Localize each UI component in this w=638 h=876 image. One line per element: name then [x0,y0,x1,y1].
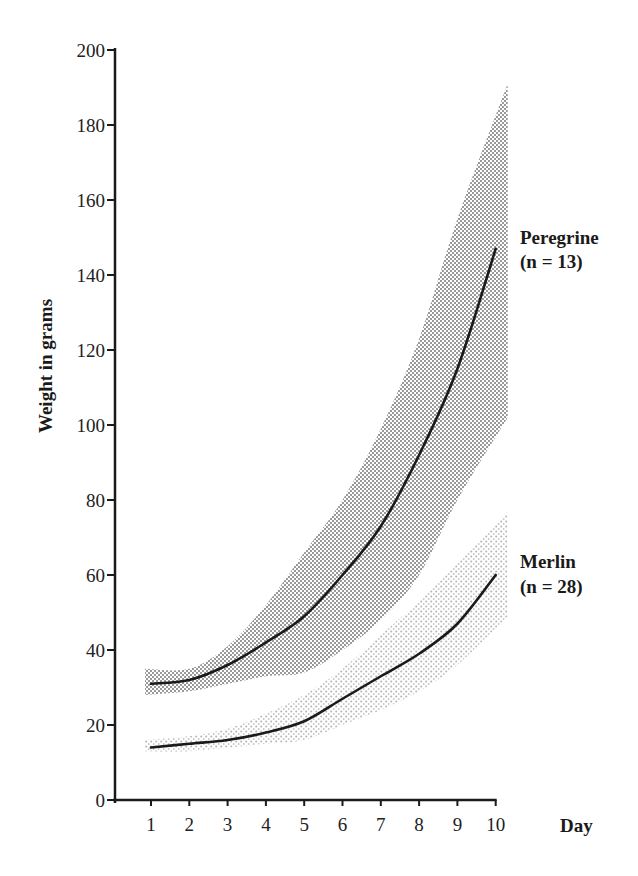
x-tick-label: 4 [261,814,271,835]
y-tick-label: 140 [77,265,106,286]
y-tick-label: 160 [77,190,106,211]
y-tick-label: 40 [86,640,105,661]
y-tick-label: 120 [77,340,106,361]
y-tick-label: 80 [86,490,105,511]
x-tick-label: 1 [146,814,156,835]
y-tick-label: 180 [77,115,106,136]
range-bands [145,84,508,752]
x-tick-label: 9 [453,814,463,835]
merlin-n-label: (n = 28) [520,576,583,598]
growth-chart: 020406080100120140160180200 12345678910 … [0,0,638,876]
y-tick-label: 0 [96,790,106,811]
peregrine-n-label: (n = 13) [520,251,583,273]
x-tick-label: 3 [223,814,233,835]
x-tick-label: 7 [376,814,386,835]
x-tick-label: 8 [414,814,424,835]
peregrine-label: Peregrine [520,227,599,248]
merlin-label: Merlin [520,551,576,572]
y-tick-label: 60 [86,565,105,586]
y-tick-label: 20 [86,715,105,736]
y-axis: 020406080100120140160180200 [77,40,116,811]
x-axis-title: Day [560,815,593,836]
x-tick-label: 5 [299,814,309,835]
x-tick-label: 2 [185,814,195,835]
x-tick-label: 10 [486,814,505,835]
y-axis-title: Weight in grams [35,299,56,433]
y-tick-label: 200 [77,40,106,61]
y-tick-label: 100 [77,415,106,436]
x-axis: 12345678910 [113,800,505,835]
x-tick-label: 6 [338,814,348,835]
